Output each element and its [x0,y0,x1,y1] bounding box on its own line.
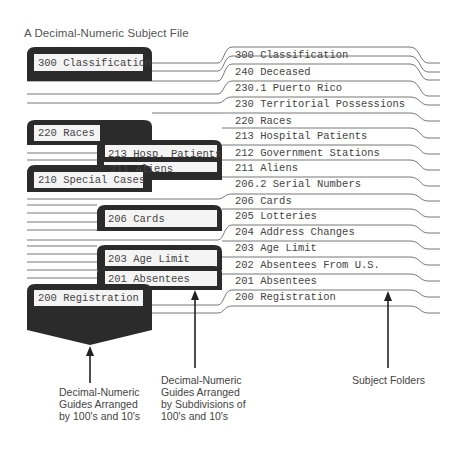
folder-label: 230.1 Puerto Rico [235,82,342,94]
folder-tab-outline-5 [152,113,440,121]
folder-label: 203 Age Limit [235,242,317,254]
folder-label: 202 Absentees From U.S. [235,259,380,271]
caption-primary-guides: Decimal-Numeric Guides Arranged by 100's… [59,386,149,422]
folder-label: 212 Government Stations [235,147,380,159]
guide-label-220: 220 Races [38,127,95,139]
folder-label: 204 Address Changes [235,226,355,238]
folder-label: 206 Cards [235,195,292,207]
folder-label: 230 Territorial Possessions [235,98,405,110]
guide-label-210: 210 Special Cases [38,174,145,186]
folder-label: 201 Absentees [235,275,317,287]
guide-label-213: 213 Hosp. Patients [108,148,221,160]
folder-label: 300 Classification [235,49,348,61]
folder-label: 205 Lotteries [235,210,317,222]
guide-label-201: 201 Absentees [108,273,190,285]
folder-label: 200 Registration [235,291,336,303]
folder-tab-outline-10 [27,194,440,201]
folder-tab-outline-12 [27,225,440,240]
guide-label-200: 200 Registration [38,292,139,304]
folder-label: 211 Aliens [235,162,298,174]
caption-secondary-guides: Decimal-Numeric Guides Arranged by Subdi… [161,374,251,422]
folder-labels: 300 Classification 240 Deceased 230.1 Pu… [235,49,405,303]
guide-label-203: 203 Age Limit [108,253,190,265]
folder-label: 220 Races [235,115,292,127]
folder-label: 240 Deceased [235,66,311,78]
guide-label-300: 300 Classification [38,57,151,69]
arrow-up-icon [191,290,199,300]
folder-tab-outline-3 [27,81,440,96]
folder-label: 206.2 Serial Numbers [235,178,361,190]
arrow-up-icon [384,291,392,301]
guide-label-206: 206 Cards [108,213,165,225]
folder-label: 213 Hospital Patients [235,130,367,142]
caption-subject-folders: Subject Folders [352,374,442,386]
arrow-up-icon [86,346,94,356]
